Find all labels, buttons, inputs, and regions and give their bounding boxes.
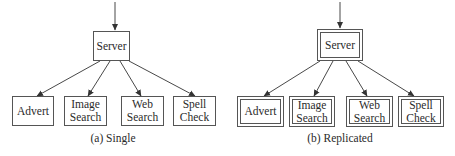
advert-node: Advert: [237, 96, 284, 127]
spell-check-label: Spell Check: [406, 99, 435, 125]
image-search-node: Image Search: [64, 96, 107, 126]
server-node: Server: [317, 29, 363, 61]
spell-check-label: Spell Check: [180, 98, 209, 124]
edges-layer: [0, 0, 455, 156]
server-label: Server: [325, 39, 355, 52]
web-search-label: Web Search: [354, 99, 385, 125]
advert-label: Advert: [245, 105, 277, 118]
image-search-label: Image Search: [70, 98, 101, 124]
advert-node: Advert: [12, 96, 54, 126]
edge-server-spell-check: [358, 61, 414, 96]
image-search-label: Image Search: [296, 99, 327, 125]
web-search-node: Web Search: [121, 96, 164, 126]
caption-single: (a) Single: [90, 132, 135, 144]
web-search-node: Web Search: [346, 96, 393, 127]
edge-server-web-search: [120, 61, 141, 96]
web-search-label: Web Search: [127, 98, 158, 124]
edge-server-image-search: [314, 61, 333, 96]
edge-server-web-search: [346, 61, 367, 96]
edge-server-advert: [37, 61, 100, 96]
spell-check-node: Spell Check: [173, 96, 216, 126]
server-node: Server: [93, 31, 130, 61]
spell-check-node: Spell Check: [398, 96, 444, 127]
caption-replicated: (b) Replicated: [307, 132, 372, 144]
advert-label: Advert: [17, 105, 49, 118]
edge-server-advert: [264, 61, 320, 96]
image-search-node: Image Search: [289, 96, 335, 127]
server-label: Server: [96, 40, 126, 53]
edge-server-spell-check: [129, 61, 195, 96]
